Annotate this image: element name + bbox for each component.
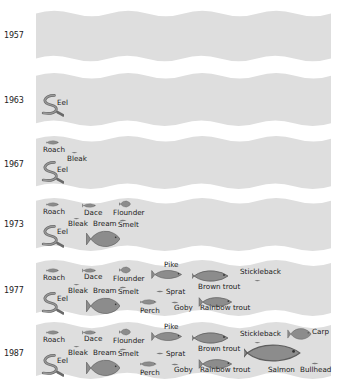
species-label-rainbow-trout: Rainbow trout — [200, 366, 250, 374]
species-label-stickleback: Stickleback — [240, 268, 281, 276]
pike-icon — [148, 269, 190, 280]
salmon-icon — [244, 342, 306, 364]
year-label: 1963 — [4, 96, 24, 105]
brown-trout-icon — [192, 331, 232, 345]
band-1987: Roach Dace Flounder Pike Brown trout Sti… — [36, 320, 331, 381]
species-label-sprat: Sprat — [166, 288, 185, 296]
species-label-eel: Eel — [57, 228, 68, 236]
year-label: 1957 — [4, 31, 24, 40]
band-1963: Eel — [36, 71, 331, 128]
species-label-bream: Bream — [93, 220, 117, 228]
species-label-salmon: Salmon — [268, 366, 295, 374]
water-band — [36, 71, 331, 128]
sprat-icon — [154, 352, 166, 355]
species-label-rainbow-trout: Rainbow trout — [200, 304, 250, 312]
band-1973: Roach Dace Flounder Bleak Bream Smelt Ee… — [36, 196, 331, 253]
species-label-pike: Pike — [164, 261, 179, 269]
species-label-roach: Roach — [43, 208, 65, 216]
band-1967: Roach Bleak Eel — [36, 134, 331, 191]
species-label-roach: Roach — [43, 336, 65, 344]
brown-trout-icon — [192, 269, 232, 283]
flounder-icon — [119, 200, 131, 208]
species-label-bream: Bream — [93, 287, 117, 295]
species-label-brown-trout: Brown trout — [198, 345, 240, 353]
species-label-flounder: Flounder — [113, 275, 145, 283]
species-label-perch: Perch — [140, 369, 160, 377]
species-label-pike: Pike — [164, 323, 179, 331]
species-label-flounder: Flounder — [113, 209, 145, 217]
carp-icon — [285, 327, 315, 341]
species-label-smelt: Smelt — [118, 350, 139, 358]
species-label-bullhead: Bullhead — [300, 366, 331, 374]
species-label-eel: Eel — [57, 166, 68, 174]
water-band — [36, 9, 331, 63]
perch-icon — [140, 360, 158, 368]
species-label-eel: Eel — [57, 357, 68, 365]
bream-icon — [86, 229, 122, 249]
species-label-bleak: Bleak — [68, 287, 88, 295]
species-label-dace: Dace — [84, 335, 102, 343]
species-label-eel: Eel — [57, 295, 68, 303]
species-label-bleak: Bleak — [67, 155, 87, 163]
year-label: 1967 — [4, 160, 24, 169]
year-label: 1977 — [4, 286, 24, 295]
sprat-icon — [154, 290, 166, 293]
band-1957 — [36, 9, 331, 63]
perch-icon — [140, 298, 158, 306]
species-label-roach: Roach — [43, 146, 65, 154]
species-label-bleak: Bleak — [68, 349, 88, 357]
species-label-roach: Roach — [43, 274, 65, 282]
species-label-stickleback: Stickleback — [240, 330, 281, 338]
species-label-smelt: Smelt — [118, 221, 139, 229]
stickleback-icon — [254, 279, 261, 282]
bream-icon — [86, 296, 122, 316]
species-label-bream: Bream — [93, 349, 117, 357]
band-1977: Roach Dace Flounder Pike Brown trout Sti… — [36, 258, 331, 318]
year-label: 1973 — [4, 220, 24, 229]
species-label-brown-trout: Brown trout — [198, 283, 240, 291]
year-label: 1987 — [4, 349, 24, 358]
flounder-icon — [119, 266, 131, 274]
species-label-sprat: Sprat — [166, 350, 185, 358]
species-label-flounder: Flounder — [113, 337, 145, 345]
species-label-goby: Goby — [174, 366, 193, 374]
species-label-eel: Eel — [57, 99, 68, 107]
species-label-bleak: Bleak — [68, 220, 88, 228]
flounder-icon — [119, 328, 131, 336]
species-label-perch: Perch — [140, 307, 160, 315]
species-label-dace: Dace — [84, 209, 102, 217]
species-label-smelt: Smelt — [118, 288, 139, 296]
species-label-dace: Dace — [84, 273, 102, 281]
bream-icon — [86, 358, 122, 378]
species-label-carp: Carp — [312, 328, 329, 336]
pike-icon — [148, 331, 190, 342]
species-label-goby: Goby — [174, 304, 193, 312]
